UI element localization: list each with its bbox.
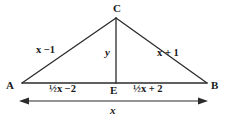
vertex-label-c: C [113, 3, 121, 14]
vertex-label-e: E [110, 85, 118, 96]
altitude-label: y [105, 47, 110, 58]
vertex-label-a: A [6, 80, 14, 91]
base-segment-label-left: ½x −2 [49, 84, 76, 95]
side-label-left: x −1 [36, 45, 55, 56]
dimension-arrowhead-right-icon [198, 97, 208, 104]
geometry-figure: A B C E x −1 x + 1 y ½x −2 ½x + 2 x [0, 0, 225, 123]
base-segment-label-right: ½x + 2 [133, 84, 163, 95]
vertex-label-b: B [211, 80, 219, 91]
side-label-right: x + 1 [157, 48, 179, 59]
base-total-label: x [110, 105, 116, 116]
dimension-arrowhead-left-icon [19, 97, 29, 104]
